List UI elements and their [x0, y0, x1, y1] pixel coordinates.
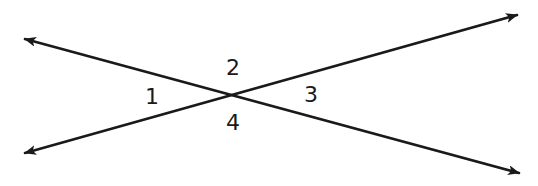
intersecting-lines-diagram	[0, 0, 538, 186]
angle-label-3: 3	[304, 84, 318, 106]
angle-label-1: 1	[145, 86, 159, 108]
angle-label-2: 2	[226, 57, 240, 79]
line-lower-left-to-upper-right	[25, 15, 517, 153]
line-upper-left-to-lower-right	[25, 39, 519, 173]
angle-label-4: 4	[226, 112, 240, 134]
